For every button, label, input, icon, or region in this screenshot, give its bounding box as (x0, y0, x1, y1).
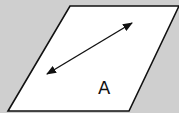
plane-parallelogram (8, 6, 179, 111)
plane-label: A (98, 77, 111, 98)
diagram-canvas: A (0, 0, 179, 113)
